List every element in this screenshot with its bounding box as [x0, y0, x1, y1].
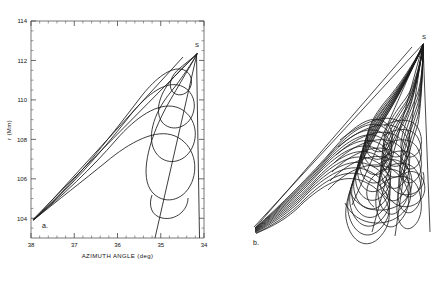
ytick-label-114: 114 — [17, 18, 27, 24]
xtick-label-36: 36 — [114, 242, 121, 248]
two-panel-ray-trajectory-figure: 38 37 36 35 34 104 106 108 110 112 114 A… — [0, 0, 448, 287]
figure-background — [0, 0, 448, 287]
y-axis-title: r (Mm) — [6, 120, 12, 140]
xtick-label-35: 35 — [157, 242, 164, 248]
ytick-label-106: 106 — [17, 176, 28, 182]
x-axis-title: AZIMUTH ANGLE (deg) — [82, 253, 154, 259]
source-label-panel-b: S — [422, 34, 426, 40]
xtick-label-37: 37 — [71, 242, 78, 248]
ytick-label-104: 104 — [17, 216, 28, 222]
ytick-label-110: 110 — [17, 97, 27, 103]
panel-label-a: a. — [42, 222, 48, 229]
xtick-label-34: 34 — [201, 242, 208, 248]
source-label-panel-a: S — [195, 42, 199, 48]
panel-label-b: b. — [253, 239, 259, 246]
ytick-label-108: 108 — [17, 137, 28, 143]
xtick-label-38: 38 — [28, 242, 35, 248]
ytick-label-112: 112 — [17, 58, 27, 64]
